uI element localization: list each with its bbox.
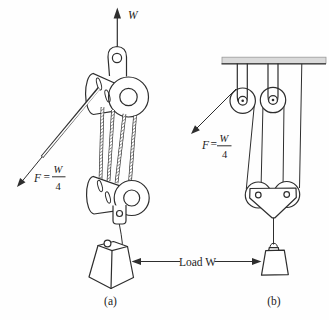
ceiling-beam xyxy=(222,57,327,64)
load-weight-a xyxy=(89,240,134,288)
rope-strands-b xyxy=(246,64,301,189)
caption-b: (b) xyxy=(267,295,281,308)
force-equals-a: = xyxy=(44,171,51,183)
clevis-top xyxy=(108,47,127,77)
load-arrow-right xyxy=(252,258,262,265)
force-symbol-a: F xyxy=(33,172,42,184)
force-numerator-a: W xyxy=(54,164,64,175)
rope-strands-a xyxy=(101,107,136,183)
load-weight-b xyxy=(262,243,289,275)
force-denominator-b: 4 xyxy=(222,149,228,160)
up-arrow-w xyxy=(114,8,121,47)
lower-sheave-block xyxy=(245,182,299,218)
lower-pulley-block xyxy=(87,177,150,225)
load-callout: Load W xyxy=(132,256,262,268)
force-label-b: F = W 4 xyxy=(201,133,232,160)
panel-b: F = W 4 (b) xyxy=(191,57,326,308)
pull-rope-b xyxy=(191,89,236,134)
force-denominator-a: 4 xyxy=(56,181,62,192)
force-symbol-b: F xyxy=(201,139,210,151)
load-arrow-left xyxy=(132,258,142,265)
fixed-rope xyxy=(300,64,302,188)
pulley-left-top xyxy=(230,64,255,114)
figure-pulley-systems: W F = W 4 xyxy=(0,0,329,320)
pulley-right-top xyxy=(260,64,285,113)
pulley-diagram-svg: W F = W 4 xyxy=(0,0,329,320)
force-numerator-b: W xyxy=(220,133,230,144)
force-equals-b: = xyxy=(211,138,218,150)
weight-arrow-label-a: W xyxy=(128,9,139,21)
caption-a: (a) xyxy=(104,295,117,308)
force-label-a: F = W 4 xyxy=(33,164,66,192)
panel-a: W F = W 4 xyxy=(17,8,149,309)
load-w-label: Load W xyxy=(179,256,216,268)
